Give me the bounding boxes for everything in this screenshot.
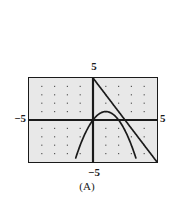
figure-caption: (A) <box>0 181 174 192</box>
axis-label-bottom: −5 <box>82 167 106 178</box>
figure-graph-A: 5 −5 5 −5 (A) <box>0 0 174 205</box>
curve-line <box>91 78 157 162</box>
curve-parabola <box>76 112 136 158</box>
curves-layer <box>29 78 157 162</box>
axis-label-left: −5 <box>4 113 26 124</box>
axis-label-top: 5 <box>86 61 102 72</box>
plot-frame <box>28 77 158 163</box>
axis-label-right: 5 <box>160 113 172 124</box>
